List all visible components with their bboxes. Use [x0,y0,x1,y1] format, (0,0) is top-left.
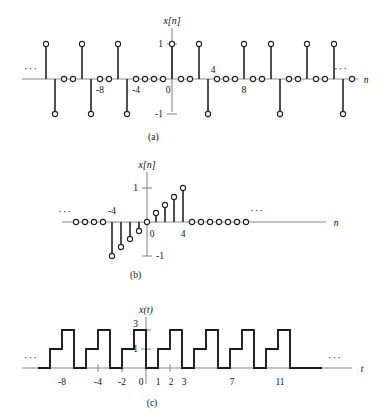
panel-a-xlabel-neg4: -4 [132,85,140,95]
panel-a-right-ellipsis: ··· [334,62,348,74]
figure-svg: x[n] 1 -1 n ··· ··· -8 -4 0 4 8 [0,0,388,419]
panel-c-xlabel-neg8: -8 [58,377,66,387]
panel-a-xlabel-neg8: -8 [96,85,104,95]
panel-a-ylabel-1: 1 [158,39,163,49]
panel-a-xlabel-4: 4 [211,65,216,75]
panel-a-left-ellipsis: ··· [24,62,38,74]
panel-b-ylabel-neg1: -1 [156,251,164,261]
panel-b-left-ellipsis: ··· [58,205,72,217]
panel-a-ylabel-neg1: -1 [155,109,163,119]
panel-c-xlabel-2: 2 [169,377,174,387]
panel-c-right-ellipsis: ··· [328,351,342,363]
panel-a: x[n] 1 -1 n ··· ··· -8 -4 0 4 8 [22,15,369,143]
panel-c-xlabel-1: 1 [156,377,161,387]
panel-c-xlabel-7: 7 [230,377,235,387]
panel-c-xlabel-neg4: -4 [94,377,102,387]
panel-a-id: (a) [148,132,159,143]
panel-c-ylabel-3: 3 [133,319,138,329]
panel-a-xlabel-8: 8 [242,85,247,95]
panel-b-xlabel-4: 4 [181,229,186,239]
panel-b: x[n] 1 -1 n ··· ··· -4 0 4 [58,159,339,281]
panel-b-ylabel-1: 1 [133,183,138,193]
panel-b-x-axis-label: n [334,218,339,228]
panel-c-xlabel-neg2: -2 [118,377,126,387]
panel-b-right-ellipsis: ··· [250,204,264,216]
panel-c-id: (c) [147,398,158,409]
panel-c-xlabel-11: 11 [275,377,284,387]
panel-b-xlabel-neg4: -4 [108,206,116,216]
panel-b-xlabel-0: 0 [150,229,155,239]
panel-c-xlabel-3: 3 [182,377,187,387]
panel-c-waveform [38,330,322,368]
panel-a-xlabel-0: 0 [166,85,171,95]
panel-c-signal-label: x(t) [138,304,154,316]
panel-c-left-ellipsis: ··· [24,351,38,363]
signal-figure-sheet: x[n] 1 -1 n ··· ··· -8 -4 0 4 8 [0,0,388,419]
panel-b-id: (b) [130,270,141,281]
panel-c-xlabel-0: 0 [139,377,144,387]
panel-c: x(t) 1 3 t ··· ··· -8 -4 -2 0 1 2 3 7 11… [22,304,364,409]
panel-b-signal-label: x[n] [137,159,155,170]
panel-a-signal-label: x[n] [162,15,180,26]
panel-c-x-axis-label: t [361,364,364,374]
panel-a-x-axis-label: n [364,75,369,85]
